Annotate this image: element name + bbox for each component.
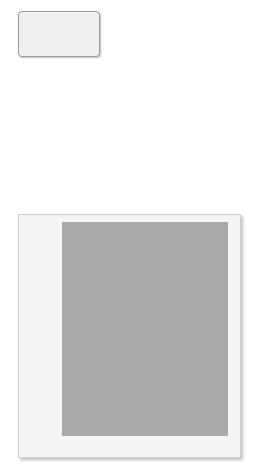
population-plot (62, 222, 228, 436)
figure-canvas (0, 0, 256, 475)
plot-area (62, 222, 228, 436)
